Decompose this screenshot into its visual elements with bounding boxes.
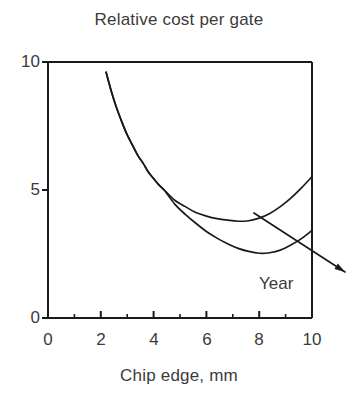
chart-figure: Relative cost per gate 10 5 0 0 2 4 6 8 …: [0, 0, 358, 399]
ytick-label-5: 5: [8, 180, 40, 200]
xtick-label-6: 6: [202, 330, 211, 350]
xtick-label-4: 4: [149, 330, 158, 350]
curve-later-year-curve: [106, 72, 312, 253]
ytick-label-10: 10: [8, 52, 40, 72]
arrow-head: [334, 264, 345, 272]
year-arrow: [254, 213, 345, 272]
xtick-label-2: 2: [96, 330, 105, 350]
xtick-label-10: 10: [303, 330, 322, 350]
chart-title: Relative cost per gate: [0, 10, 358, 30]
x-axis-title: Chip edge, mm: [0, 366, 358, 386]
curve-earlier-year-curve: [106, 72, 312, 221]
xtick-label-8: 8: [254, 330, 263, 350]
arrow-shaft: [254, 213, 345, 272]
annotation-year-label: Year: [259, 274, 293, 294]
data-curves: [106, 72, 312, 253]
ytick-label-0: 0: [8, 308, 40, 328]
xtick-label-0: 0: [43, 330, 52, 350]
